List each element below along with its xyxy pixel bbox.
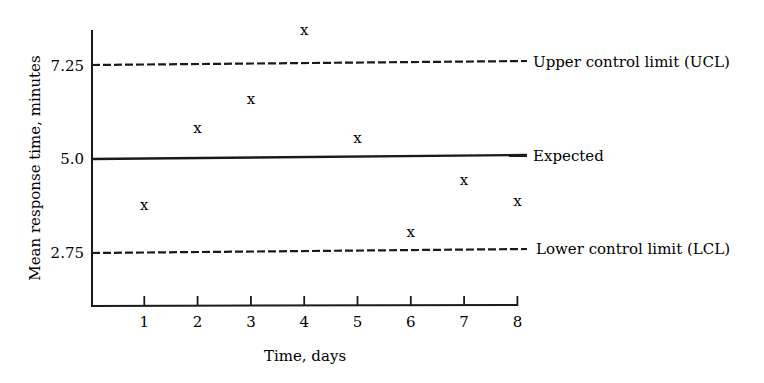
lcl-line xyxy=(92,249,527,253)
data-point-x-marker: x xyxy=(140,196,149,214)
data-point-x-marker: x xyxy=(353,129,362,147)
control-chart: 12345678 7.25 5.0 2.75 Upper control lim… xyxy=(0,0,764,383)
y-axis-title: Mean response time, minutes xyxy=(26,55,44,280)
ucl-line xyxy=(92,61,527,65)
x-tick-label: 4 xyxy=(299,313,309,331)
data-point-x-marker: x xyxy=(407,223,416,241)
x-tick-label: 7 xyxy=(459,313,469,331)
x-tick-label: 8 xyxy=(513,313,523,331)
lcl-label: Lower control limit (LCL) xyxy=(536,240,730,258)
data-point-x-marker: x xyxy=(247,90,256,108)
y-tick-7.25: 7.25 xyxy=(51,57,84,75)
data-point-x-marker: x xyxy=(513,192,522,210)
x-ticks: 12345678 xyxy=(140,296,523,331)
data-point-x-marker: x xyxy=(300,21,309,39)
expected-line xyxy=(92,155,527,159)
y-tick-2.75: 2.75 xyxy=(51,244,84,262)
x-tick-label: 3 xyxy=(246,313,256,331)
x-axis-title: Time, days xyxy=(264,347,346,365)
y-tick-5.0: 5.0 xyxy=(60,150,84,168)
x-tick-label: 2 xyxy=(193,313,203,331)
data-point-x-marker: x xyxy=(460,171,469,189)
data-points: xxxxxxxx xyxy=(140,21,522,241)
data-point-x-marker: x xyxy=(193,119,202,137)
expected-label: Expected xyxy=(533,147,604,165)
ucl-label: Upper control limit (UCL) xyxy=(533,53,730,71)
x-tick-label: 6 xyxy=(406,313,416,331)
x-tick-label: 1 xyxy=(140,313,150,331)
x-tick-label: 5 xyxy=(353,313,363,331)
